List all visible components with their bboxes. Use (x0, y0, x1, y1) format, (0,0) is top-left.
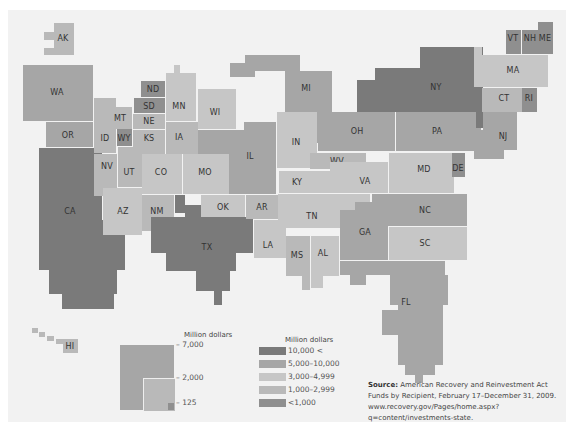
state-GA-part (355, 202, 375, 210)
label-NC: NC (419, 206, 431, 215)
legend-label-10000-plus: 10,000 < (288, 346, 323, 355)
state-FL (398, 305, 443, 365)
source-note: Source: American Recovery and Reinvestme… (368, 380, 568, 424)
size-square-125 (168, 403, 174, 410)
label-CA: CA (64, 207, 75, 216)
label-MO: MO (198, 168, 212, 177)
label-UT: UT (123, 168, 134, 177)
state-CA-part (62, 294, 114, 309)
legend-swatch-3000-4999 (259, 373, 286, 381)
legend-label-5000-10000: 5,000–10,000 (288, 359, 339, 368)
label-VA: VA (360, 177, 371, 186)
label-TX: TX (202, 243, 213, 252)
state-FL-part (405, 365, 435, 375)
label-WI: WI (210, 108, 221, 117)
legend-swatch-1000-2999 (259, 386, 286, 394)
label-AL: AL (318, 249, 328, 258)
size-tick-2000: – 2,000 (176, 373, 204, 382)
label-SC: SC (419, 239, 430, 248)
state-AK-part (44, 32, 56, 40)
legend-label-3000-4999: 3,000–4,999 (288, 372, 335, 381)
label-TN: TN (306, 212, 317, 221)
label-MN: MN (172, 102, 185, 111)
label-NJ: NJ (499, 132, 508, 141)
source-label: Source: (368, 381, 398, 389)
legend-label-1000-2999: 1,000–2,999 (288, 385, 335, 394)
label-NV: NV (101, 162, 113, 171)
state-HI-island (47, 336, 54, 341)
legend-label-under-1000: <1,000 (288, 398, 316, 407)
state-FL-part (350, 275, 366, 285)
legend-swatch-10000-plus (259, 347, 286, 355)
label-CO: CO (155, 168, 167, 177)
label-AR: AR (256, 203, 267, 212)
label-CT: CT (499, 94, 510, 103)
label-OK: OK (217, 203, 229, 212)
state-IL-part (244, 122, 276, 130)
label-HI: HI (66, 342, 75, 351)
state-AK-part (44, 48, 56, 55)
size-legend-title: Million dollars (184, 331, 232, 339)
state-MA-part (474, 47, 482, 55)
label-OH: OH (351, 127, 364, 136)
label-DE: DE (452, 164, 464, 173)
state-MS-part (302, 276, 310, 290)
label-WY: WY (117, 134, 130, 143)
label-NE: NE (143, 117, 154, 126)
label-FL: FL (401, 298, 410, 307)
state-TX-part (214, 291, 222, 305)
label-GA: GA (359, 228, 371, 237)
label-NH: NH (524, 34, 536, 43)
label-MD: MD (417, 165, 430, 174)
label-LA: LA (263, 241, 274, 250)
label-PA: PA (432, 127, 442, 136)
color-legend-title: Million dollars (285, 336, 333, 344)
label-RI: RI (525, 94, 533, 103)
state-MN-part (174, 65, 180, 73)
state-FL-part (390, 275, 448, 305)
size-tick-7000: – 7,000 (176, 340, 204, 349)
state-FL-part (382, 310, 398, 335)
state-TX-part (196, 271, 230, 291)
label-IN: IN (292, 138, 301, 147)
label-AK: AK (57, 34, 68, 43)
state-HI-island (32, 328, 38, 333)
label-NY: NY (430, 83, 441, 92)
size-tick-125: – 125 (176, 398, 196, 407)
label-OR: OR (62, 131, 74, 140)
label-MT: MT (114, 114, 126, 123)
label-AZ: AZ (117, 207, 128, 216)
label-KS: KS (144, 134, 155, 143)
state-FL-panhandle (340, 261, 445, 275)
state-TX-part (166, 253, 236, 271)
legend-swatch-under-1000 (259, 399, 286, 407)
state-MI-upper-left (230, 63, 255, 77)
label-ND: ND (147, 85, 160, 94)
state-NY-part (357, 80, 420, 112)
label-MI: MI (301, 84, 311, 93)
label-VT: VT (508, 34, 519, 43)
label-MA: MA (507, 66, 520, 75)
state-AL-part (311, 276, 323, 288)
label-WA: WA (50, 88, 63, 97)
state-HI-island (39, 332, 45, 337)
state-MN (166, 73, 196, 121)
label-KY: KY (292, 178, 302, 187)
label-SD: SD (143, 102, 155, 111)
label-ME: ME (539, 34, 551, 43)
label-NM: NM (150, 207, 163, 216)
state-NY-part (375, 68, 420, 80)
label-ID: ID (101, 134, 110, 143)
label-IL: IL (246, 152, 253, 161)
state-CA-part (49, 270, 117, 294)
legend-swatch-5000-10000 (259, 360, 286, 368)
state-TX-panhandle (175, 195, 185, 213)
label-IA: IA (175, 133, 183, 142)
label-MS: MS (291, 251, 303, 260)
